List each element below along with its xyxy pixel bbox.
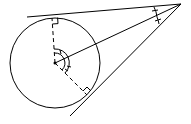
lower-tangent-line — [70, 4, 181, 116]
external-angle-arc — [154, 7, 159, 24]
center-point — [54, 62, 57, 65]
upper-radius — [52, 18, 55, 63]
center-angle-tick — [67, 66, 71, 67]
lower-radius — [55, 63, 87, 95]
lower-right-angle-mark — [83, 87, 91, 91]
center-angle-arc-inner — [54, 53, 64, 70]
external-angle-tick — [152, 10, 158, 11]
upper-right-angle-mark — [52, 18, 58, 24]
tangent-circle-diagram — [0, 0, 191, 124]
